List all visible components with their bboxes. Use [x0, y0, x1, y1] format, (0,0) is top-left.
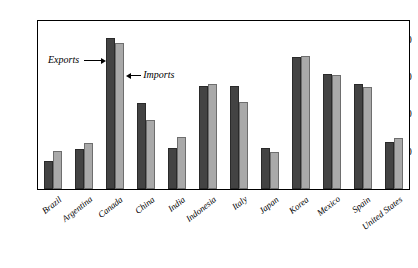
- bar-series-container: [38, 21, 409, 189]
- bar-group: [224, 21, 255, 189]
- bar-group: [347, 21, 378, 189]
- bar-group: [378, 21, 409, 189]
- bar-exports-india: [168, 148, 177, 189]
- bar-group: [100, 21, 131, 189]
- bar-exports-brazil: [44, 161, 53, 189]
- bar-group: [38, 21, 69, 189]
- bar-imports-china: [146, 120, 155, 189]
- bar-exports-korea: [292, 57, 301, 189]
- x-tick-label-china: China: [133, 194, 157, 215]
- bar-group: [193, 21, 224, 189]
- bar-imports-india: [177, 137, 186, 189]
- x-tick-label-canada: Canada: [96, 194, 125, 219]
- source-note: [6, 258, 306, 267]
- bar-group: [69, 21, 100, 189]
- bar-exports-indonesia: [199, 86, 208, 189]
- bar-imports-brazil: [53, 151, 62, 189]
- x-tick-label-japan: Japan: [257, 194, 280, 215]
- bar-group: [254, 21, 285, 189]
- bar-group: [162, 21, 193, 189]
- bar-imports-italy: [239, 102, 248, 189]
- chart-figure: 10203040 BrazilArgentinaCanadaChinaIndia…: [0, 0, 418, 268]
- annotation-exports-label: Exports: [48, 54, 79, 65]
- x-tick-label-korea: Korea: [287, 194, 311, 216]
- bar-exports-china: [137, 103, 146, 189]
- bar-imports-mexico: [332, 75, 341, 189]
- bar-imports-united-states: [394, 138, 403, 189]
- bar-imports-argentina: [84, 143, 93, 189]
- bar-exports-spain: [354, 84, 363, 189]
- bar-imports-indonesia: [208, 84, 217, 189]
- bar-exports-italy: [230, 86, 239, 189]
- annotation-imports-arrow-line: [131, 75, 141, 76]
- bar-imports-japan: [270, 152, 279, 189]
- bar-imports-spain: [363, 87, 372, 189]
- x-tick-label-argentina: Argentina: [60, 194, 94, 224]
- x-tick-label-mexico: Mexico: [315, 194, 342, 218]
- annotation-imports-label: Imports: [143, 69, 174, 80]
- bar-exports-japan: [261, 148, 270, 189]
- bar-exports-mexico: [323, 74, 332, 189]
- annotation-exports-arrow-line: [84, 60, 101, 61]
- x-tick-label-italy: Italy: [230, 194, 249, 212]
- x-tick-label-india: India: [166, 194, 187, 214]
- x-tick-label-spain: Spain: [350, 194, 372, 215]
- bar-imports-canada: [115, 43, 124, 189]
- annotation-exports-arrow-head: [101, 58, 106, 64]
- x-tick-label-indonesia: Indonesia: [184, 194, 218, 224]
- bar-group: [285, 21, 316, 189]
- bar-group: [131, 21, 162, 189]
- bar-imports-korea: [301, 56, 310, 189]
- bar-exports-united-states: [385, 142, 394, 189]
- bar-exports-canada: [106, 38, 115, 189]
- x-tick-label-brazil: Brazil: [40, 194, 64, 215]
- bar-exports-argentina: [75, 149, 84, 189]
- bar-group: [316, 21, 347, 189]
- annotation-imports-arrow-head: [126, 73, 131, 79]
